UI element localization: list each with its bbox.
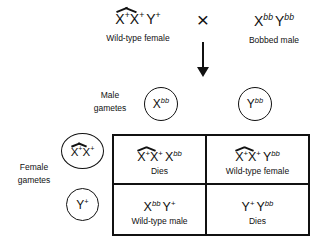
male-gamete-xbb-circle: Xbb [144, 87, 178, 121]
punnett-cell-1-phenotype: Dies [151, 167, 168, 176]
punnett-square: X+X+Xbb Dies X+X+Ybb Wild-type female Xb… [112, 134, 310, 236]
punnett-cell-2-phenotype: Wild-type female [226, 167, 289, 176]
female-parent: X+X+Y+ Wild-type female [88, 6, 188, 43]
female-gamete-xx-genotype: X+X+ [71, 143, 95, 159]
punnett-cell-3-phenotype: Wild-type male [131, 217, 187, 226]
male-gamete-ybb-circle: Ybb [238, 87, 272, 121]
female-parent-label: Wild-type female [88, 33, 188, 43]
punnett-cell-3-genotype: XbbY+ [144, 196, 176, 214]
punnett-cell-1: X+X+Xbb Dies [114, 136, 207, 185]
punnett-cell-1-genotype: X+X+Xbb [137, 146, 182, 164]
male-gamete-ybb-genotype: Ybb [247, 98, 263, 110]
male-parent-label: Bobbed male [233, 35, 315, 45]
down-arrow-head [197, 67, 209, 77]
female-gamete-xx-circle: X+X+ [61, 133, 104, 169]
female-gametes-label: Female gametes [6, 161, 62, 187]
male-parent: XbbYbb Bobbed male [233, 8, 315, 45]
genetics-cross-diagram: X+X+Y+ Wild-type female × XbbYbb Bobbed … [0, 0, 319, 251]
female-parent-genotype: X+X+Y+ [88, 6, 188, 30]
punnett-cell-4-genotype: Y+Ybb [242, 196, 274, 214]
female-gamete-yplus-genotype: Y+ [76, 199, 88, 211]
cross-icon: × [191, 7, 215, 33]
punnett-cell-2: X+X+Ybb Wild-type female [207, 136, 308, 185]
punnett-cell-2-genotype: X+X+Ybb [235, 146, 280, 164]
female-gamete-yplus-circle: Y+ [66, 188, 99, 221]
male-parent-genotype: XbbYbb [233, 8, 315, 32]
male-gamete-xbb-genotype: Xbb [153, 98, 169, 110]
punnett-cell-4-phenotype: Dies [249, 217, 266, 226]
punnett-cell-3: XbbY+ Wild-type male [114, 185, 207, 234]
male-gametes-label: Male gametes [86, 89, 134, 115]
down-arrow-line [202, 42, 204, 68]
punnett-cell-4: Y+Ybb Dies [207, 185, 308, 234]
